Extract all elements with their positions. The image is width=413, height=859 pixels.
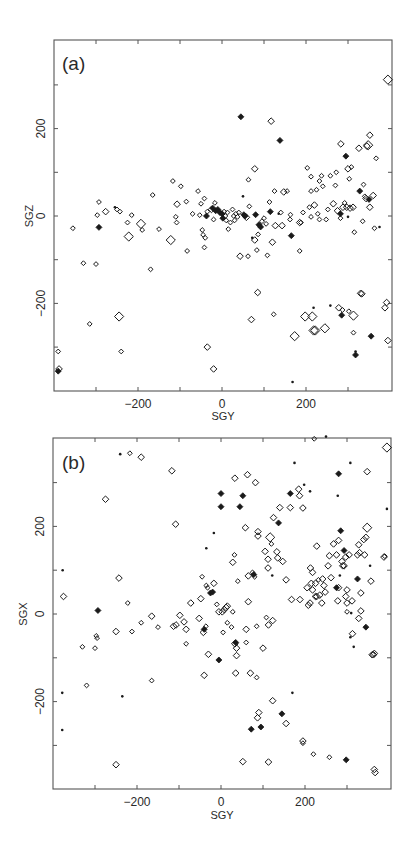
data-point-dot <box>303 483 306 486</box>
x-axis-label: SGY <box>210 809 234 821</box>
data-point-filled-diamond <box>338 528 344 534</box>
data-point-open-diamond <box>102 208 109 215</box>
data-point-open-diamond <box>244 471 251 478</box>
data-point-dot <box>352 646 355 649</box>
data-point-open-diamond <box>325 563 332 570</box>
data-point-open-diamond <box>149 678 154 683</box>
data-point-open-diamond <box>210 366 217 373</box>
data-point-open-diamond <box>269 239 276 246</box>
data-point-open-diamond <box>198 595 205 602</box>
data-point-open-diamond <box>136 219 145 228</box>
y-axis-label: SGZ <box>23 204 35 227</box>
data-point-open-diamond <box>285 189 290 194</box>
data-point-open-diamond <box>125 601 130 606</box>
data-point-open-diamond <box>267 200 272 205</box>
data-point-open-diamond <box>81 261 86 266</box>
data-point-open-diamond <box>157 227 162 232</box>
data-point-open-diamond <box>297 596 304 603</box>
data-point-open-diamond <box>290 332 299 341</box>
data-point-open-diamond <box>265 556 272 563</box>
x-tick-label: −200 <box>123 795 150 809</box>
x-axis-label: SGY <box>211 410 235 422</box>
data-point-open-diamond <box>383 75 392 84</box>
data-point-open-diamond <box>172 521 179 528</box>
data-point-open-diamond <box>252 479 259 486</box>
data-point-open-diamond <box>214 602 219 607</box>
data-point-open-diamond <box>174 201 181 208</box>
data-point-open-diamond <box>360 219 365 224</box>
data-point-dot <box>61 569 64 572</box>
data-point-open-diamond <box>201 672 208 679</box>
data-point-open-diamond <box>374 156 379 161</box>
data-point-dot <box>61 692 64 695</box>
data-point-dot <box>213 532 216 535</box>
data-point-open-diamond <box>367 132 374 139</box>
y-tick-label: −200 <box>34 290 48 317</box>
data-point-open-diamond <box>200 228 205 233</box>
data-point-open-diamond <box>288 596 295 603</box>
data-point-open-diamond <box>320 324 329 333</box>
data-point-open-diamond <box>265 565 272 572</box>
data-point-open-diamond <box>150 193 155 198</box>
data-point-open-diamond <box>309 189 314 194</box>
data-point-dot <box>325 435 328 438</box>
data-point-open-diamond <box>247 670 254 677</box>
data-point-open-diamond <box>288 212 293 217</box>
data-point-open-diamond <box>184 641 189 646</box>
data-point-open-diamond <box>283 577 290 584</box>
data-point-open-diamond <box>355 541 362 548</box>
data-point-open-diamond <box>262 548 269 555</box>
data-point-filled-diamond <box>95 607 101 613</box>
data-point-open-diamond <box>305 166 310 171</box>
data-point-filled-diamond <box>248 726 254 732</box>
data-point-filled-diamond <box>287 491 293 497</box>
data-point-open-diamond <box>333 183 338 188</box>
data-point-open-diamond <box>264 615 269 620</box>
data-point-open-diamond <box>102 496 109 503</box>
data-point-dot <box>386 508 389 511</box>
data-point-open-diamond <box>245 598 252 605</box>
data-point-open-diamond <box>296 492 303 499</box>
data-point-open-diamond <box>226 227 231 232</box>
data-point-open-diamond <box>205 651 212 658</box>
data-point-dot <box>329 304 332 307</box>
data-point-dot <box>291 381 294 384</box>
panel-label: (b) <box>62 452 85 473</box>
data-point-filled-diamond <box>237 504 243 510</box>
plot-frame <box>53 438 391 789</box>
data-point-open-diamond <box>190 211 195 216</box>
data-point-open-diamond <box>319 173 324 178</box>
data-point-open-diamond <box>246 254 251 259</box>
data-point-open-diamond <box>224 603 231 610</box>
data-point-open-diamond <box>328 173 333 178</box>
data-point-open-diamond <box>230 207 235 212</box>
data-point-dot <box>336 494 339 497</box>
data-point-open-diamond <box>270 514 277 521</box>
data-point-dot <box>309 490 312 493</box>
data-point-open-diamond <box>260 645 267 652</box>
data-point-open-diamond <box>364 468 371 475</box>
data-point-open-diamond <box>129 213 134 218</box>
data-point-dot <box>293 462 296 465</box>
data-point-open-diamond <box>200 574 205 579</box>
data-point-open-diamond <box>328 574 335 581</box>
data-point-open-diamond <box>233 652 240 659</box>
panel-a-scatter-plot: (a) −2000200−2000200 SGY SGZ <box>23 40 393 422</box>
data-point-open-diamond <box>116 575 123 582</box>
data-point-open-diamond <box>266 533 275 542</box>
data-point-open-diamond <box>225 620 230 625</box>
data-point-open-diamond <box>232 670 239 677</box>
data-point-open-diamond <box>317 217 322 222</box>
data-point-open-diamond <box>342 593 349 600</box>
data-point-dot <box>312 306 315 309</box>
axis-ticks <box>53 438 391 789</box>
data-point-open-diamond <box>251 166 258 173</box>
data-point-open-diamond <box>355 615 362 622</box>
data-point-open-diamond <box>119 349 124 354</box>
data-point-dot <box>205 547 208 550</box>
x-tick-label: 200 <box>295 795 315 809</box>
data-point-open-diamond <box>211 217 216 222</box>
data-point-filled-diamond <box>203 213 209 219</box>
data-points <box>60 435 391 776</box>
data-point-open-diamond <box>247 204 252 209</box>
